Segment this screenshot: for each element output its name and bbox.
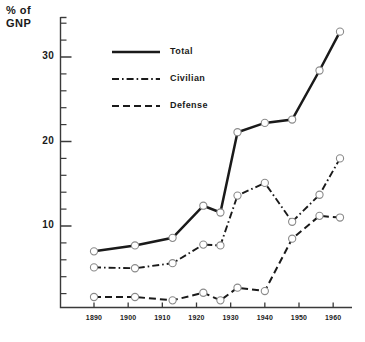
data-point [289, 235, 296, 242]
x-tick-label: 1950 [282, 314, 316, 321]
data-point [289, 116, 296, 123]
data-point [200, 289, 207, 296]
data-point [261, 119, 268, 126]
legend-label-civilian: Civilian [170, 73, 205, 83]
chart-figure: % ofGNP 102030 1890190019101920193019401… [0, 0, 365, 342]
data-point [169, 234, 176, 241]
data-point [169, 297, 176, 304]
data-point [316, 212, 323, 219]
data-point [90, 264, 97, 271]
y-axis-title-line1: % of [6, 4, 31, 16]
data-point [336, 214, 343, 221]
x-tick-label: 1960 [316, 314, 350, 321]
data-point [217, 242, 224, 249]
y-tick-label: 30 [30, 50, 54, 61]
data-point [234, 129, 241, 136]
chart-series-total [90, 28, 343, 255]
data-point [90, 293, 97, 300]
y-axis-title-line2: GNP [6, 17, 31, 29]
x-tick-label: 1930 [214, 314, 248, 321]
data-point [217, 297, 224, 304]
data-point [316, 67, 323, 74]
legend-label-total: Total [170, 46, 193, 56]
data-point [234, 284, 241, 291]
x-tick-label: 1920 [180, 314, 214, 321]
data-point [261, 179, 268, 186]
legend-swatches [112, 52, 160, 106]
data-point [200, 202, 207, 209]
x-tick-label: 1890 [77, 314, 111, 321]
data-point [131, 242, 138, 249]
x-tick-label: 1940 [248, 314, 282, 321]
y-axis-ticks [61, 23, 72, 293]
data-point [316, 191, 323, 198]
chart-series-defense [90, 212, 343, 304]
y-tick-label: 20 [30, 135, 54, 146]
x-axis-ticks [94, 303, 333, 308]
y-tick-label: 10 [30, 219, 54, 230]
data-point [200, 241, 207, 248]
legend-label-defense: Defense [170, 100, 208, 110]
x-tick-label: 1910 [145, 314, 179, 321]
data-point [90, 248, 97, 255]
data-point [217, 209, 224, 216]
y-axis-title: % ofGNP [6, 4, 31, 30]
data-point [336, 155, 343, 162]
data-point [234, 192, 241, 199]
data-point [336, 28, 343, 35]
data-point [261, 287, 268, 294]
chart-axes [61, 17, 353, 308]
data-point [131, 293, 138, 300]
x-tick-label: 1900 [111, 314, 145, 321]
data-point [289, 218, 296, 225]
data-point [131, 265, 138, 272]
data-point [169, 260, 176, 267]
